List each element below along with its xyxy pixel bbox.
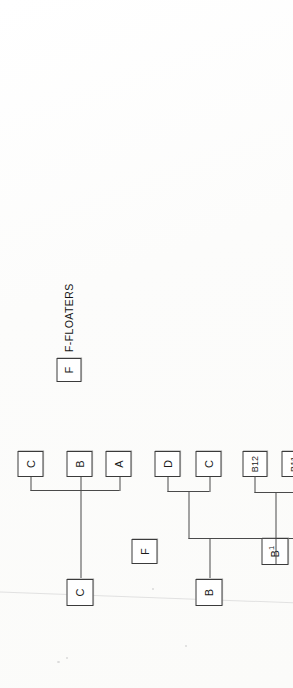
node-label: A (113, 460, 124, 468)
node-paramount-c[interactable]: C (66, 579, 93, 606)
node-label: F (63, 367, 74, 374)
node-client-a[interactable]: A (105, 451, 131, 477)
edge-b-to-client-d (167, 476, 168, 492)
edge-b1-bus (254, 492, 293, 493)
node-label: F (139, 548, 150, 555)
edge-c-bus (30, 490, 119, 491)
node-label: C (25, 460, 36, 468)
node-floater-f[interactable]: F (56, 358, 81, 382)
node-client-d[interactable]: D (154, 451, 180, 477)
node-paramount-b[interactable]: B (195, 579, 222, 606)
edge-b-dc-bus (167, 491, 209, 492)
diagram-canvas: C B A F F B1 A2 A1 C B A D C B12 B11 A (0, 0, 293, 688)
node-label: B12 (250, 456, 259, 473)
edge-b1-to-b12 (254, 476, 255, 493)
edge-b-to-client-c (209, 476, 210, 492)
node-client-c-2[interactable]: C (195, 451, 221, 477)
node-label: C (74, 588, 85, 596)
node-client-b12[interactable]: B12 (242, 451, 267, 477)
node-label: D (162, 460, 173, 468)
node-label: B (74, 460, 85, 468)
edge-c-to-client-c (30, 476, 31, 491)
edge-paramount-c-stem (80, 490, 81, 578)
node-label: C (203, 460, 214, 468)
floaters-label: F-FLOATERS (62, 283, 74, 352)
edge-b-upper-arm (188, 491, 189, 539)
node-client-b[interactable]: B (66, 451, 92, 477)
node-label: B11 (289, 456, 293, 472)
node-client-c-1[interactable]: C (17, 451, 43, 477)
edge-paramount-b-stem (209, 538, 210, 578)
edge-c-to-client-a (119, 476, 120, 491)
edge-b-lower-vert (208, 538, 275, 539)
node-client-b11[interactable]: B11 (281, 451, 293, 477)
node-label: B (203, 589, 214, 597)
edge-b-lower-connector (275, 539, 276, 564)
edge-b1-stem (275, 492, 276, 539)
node-sub-f[interactable]: F (131, 539, 157, 564)
edge-c-to-client-b (80, 476, 81, 491)
